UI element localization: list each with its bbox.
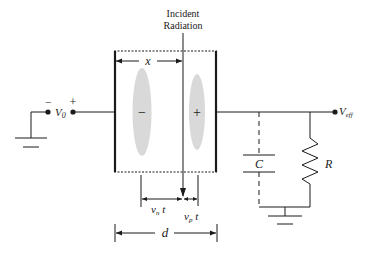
capacitor-label: C xyxy=(255,157,264,171)
right-ground-icon xyxy=(268,207,302,224)
resistor-label: R xyxy=(324,157,333,171)
x-label: x xyxy=(144,54,151,68)
bias-source: − + V0 xyxy=(31,95,115,138)
v0-label: V0 xyxy=(55,106,66,120)
incident-label-1: Incident xyxy=(167,8,200,19)
v0-minus-sign: − xyxy=(45,96,51,108)
capacitor: C xyxy=(243,112,275,207)
vp-t-label: vp t xyxy=(184,210,199,224)
minus-charge-label: − xyxy=(138,105,146,120)
resistor: R xyxy=(302,112,333,207)
vn-t-label: vn t xyxy=(151,203,166,217)
d-label: d xyxy=(162,225,169,240)
v0-positive-terminal xyxy=(70,109,75,114)
output-node: Veff xyxy=(217,105,354,119)
veff-label: Veff xyxy=(339,105,354,119)
x-dimension: x xyxy=(116,54,182,68)
v0-negative-terminal xyxy=(45,109,50,114)
d-dimension: d xyxy=(115,224,217,242)
left-ground-icon xyxy=(15,138,47,147)
drift-dimensions: vn t vp t xyxy=(141,175,199,224)
plus-charge-label: + xyxy=(193,105,201,120)
v0-plus-sign: + xyxy=(70,95,77,109)
circuit-diagram: Incident Radiation x − + − + V0 xyxy=(0,0,368,254)
incident-label-2: Radiation xyxy=(164,20,203,31)
